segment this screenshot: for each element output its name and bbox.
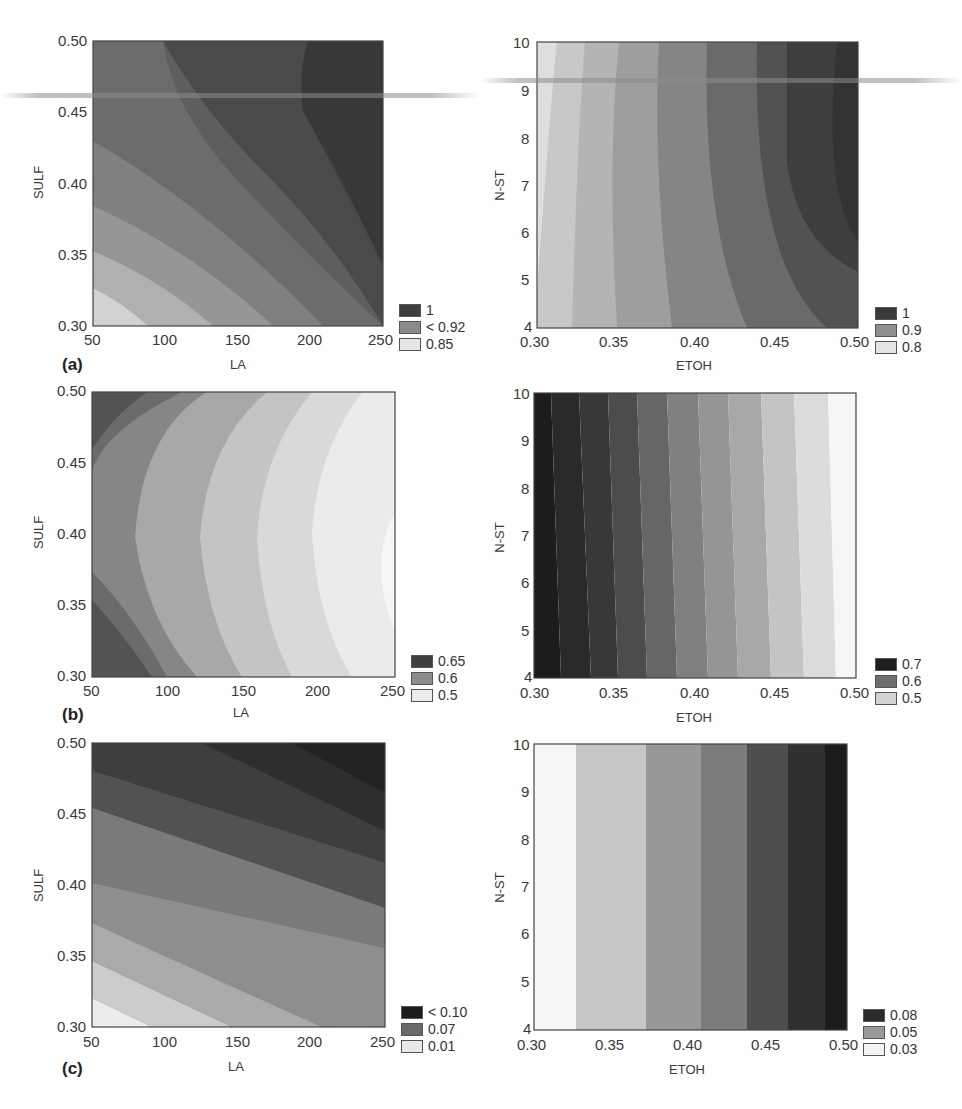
- y-tick: 9: [521, 83, 529, 98]
- legend-swatch: [399, 338, 421, 351]
- legend-swatch: [411, 689, 433, 702]
- y-tick: 0.40: [58, 176, 87, 191]
- y-tick: 0.50: [57, 735, 86, 750]
- y-axis-label: SULF: [31, 166, 46, 199]
- legend-item: 0.9: [875, 322, 921, 338]
- y-tick: 7: [521, 178, 529, 193]
- y-tick: 4: [524, 319, 532, 334]
- x-tick: 100: [152, 1034, 177, 1049]
- x-tick: 0.35: [599, 685, 628, 700]
- x-tick: 0.40: [680, 334, 709, 349]
- y-axis-label: N-ST: [492, 170, 507, 200]
- legend-item: 0.6: [875, 673, 921, 689]
- x-tick: 250: [368, 332, 393, 347]
- y-tick: 6: [521, 575, 529, 590]
- scan-streak-artifact: [0, 93, 480, 98]
- x-tick: 0.30: [520, 685, 549, 700]
- panel-b-left: 0.50 0.45 0.40 0.35 0.30 50 100 150 200 …: [0, 360, 480, 720]
- y-tick: 6: [521, 926, 529, 941]
- y-tick: 9: [521, 784, 529, 799]
- legend-item: < 0.10: [401, 1004, 467, 1020]
- y-tick: 8: [521, 832, 529, 847]
- panel-a-right: 10 9 8 7 6 5 4 0.30 0.35 0.40 0.45 0.50 …: [480, 0, 962, 360]
- legend-swatch: [399, 304, 421, 317]
- y-tick: 0.50: [57, 383, 86, 398]
- x-tick: 50: [83, 1034, 100, 1049]
- legend-item: 0.7: [875, 656, 921, 672]
- legend-item: 1: [399, 302, 465, 318]
- y-tick: 10: [513, 386, 530, 401]
- y-axis-label: SULF: [31, 869, 46, 902]
- x-tick: 0.40: [680, 685, 709, 700]
- x-tick: 0.40: [673, 1037, 702, 1052]
- y-tick: 0.35: [57, 948, 86, 963]
- y-tick: 0.30: [57, 1019, 86, 1034]
- legend: 1 0.9 0.8: [875, 305, 921, 356]
- y-tick: 10: [513, 35, 530, 50]
- legend-item: 1: [875, 305, 921, 321]
- panel-a-left: 0.50 0.45 0.40 0.35 0.30 50 100 150 200 …: [0, 0, 480, 360]
- y-tick: 0.45: [57, 806, 86, 821]
- legend-swatch: [401, 1040, 423, 1053]
- legend-swatch: [399, 321, 421, 334]
- x-tick: 0.35: [599, 334, 628, 349]
- y-axis-label: SULF: [31, 516, 46, 549]
- legend-item: 0.5: [411, 687, 465, 703]
- x-tick: 0.30: [520, 334, 549, 349]
- panel-c-right: 10 9 8 7 6 5 4 0.30 0.35 0.40 0.45 0.50 …: [480, 720, 962, 1109]
- x-tick: 0.45: [760, 685, 789, 700]
- x-tick: 200: [305, 683, 330, 698]
- legend: 0.08 0.05 0.03: [863, 1007, 917, 1058]
- x-tick: 100: [152, 332, 177, 347]
- y-tick: 0.35: [57, 597, 86, 612]
- y-tick: 10: [513, 737, 530, 752]
- x-tick: 0.35: [595, 1037, 624, 1052]
- panel-letter: (c): [62, 1059, 83, 1079]
- panel-b-right: 10 9 8 7 6 5 4 0.30 0.35 0.40 0.45 0.50 …: [480, 360, 962, 720]
- x-tick: 150: [225, 332, 250, 347]
- x-tick: 250: [380, 683, 405, 698]
- y-tick: 9: [521, 433, 529, 448]
- legend-item: 0.85: [399, 336, 465, 352]
- legend-item: 0.03: [863, 1041, 917, 1057]
- legend-item: 0.08: [863, 1007, 917, 1023]
- y-tick: 7: [521, 528, 529, 543]
- y-tick: 0.45: [57, 455, 86, 470]
- x-tick: 0.45: [760, 334, 789, 349]
- legend-swatch: [875, 675, 897, 688]
- y-tick: 5: [521, 623, 529, 638]
- y-tick: 7: [521, 879, 529, 894]
- legend-swatch: [863, 1009, 885, 1022]
- legend-swatch: [863, 1043, 885, 1056]
- y-tick: 0.50: [58, 33, 87, 48]
- y-tick: 0.40: [57, 877, 86, 892]
- legend: 0.7 0.6 0.5: [875, 656, 921, 707]
- legend-item: 0.05: [863, 1024, 917, 1040]
- y-tick: 8: [521, 481, 529, 496]
- legend-item: 0.07: [401, 1021, 467, 1037]
- legend-swatch: [875, 341, 897, 354]
- x-tick: 200: [297, 332, 322, 347]
- y-tick: 6: [521, 225, 529, 240]
- legend: < 0.10 0.07 0.01: [401, 1004, 467, 1055]
- legend: 0.65 0.6 0.5: [411, 653, 465, 704]
- legend-item: < 0.92: [399, 319, 465, 335]
- x-tick: 0.45: [751, 1037, 780, 1052]
- y-axis-label: N-ST: [492, 872, 507, 902]
- legend-swatch: [401, 1023, 423, 1036]
- panel-c-left: 0.50 0.45 0.40 0.35 0.30 50 100 150 200 …: [0, 720, 480, 1109]
- x-tick: 0.50: [840, 334, 869, 349]
- y-tick: 0.30: [58, 318, 87, 333]
- y-tick: 4: [523, 1021, 531, 1036]
- legend-swatch: [401, 1006, 423, 1019]
- y-tick: 5: [521, 272, 529, 287]
- y-tick: 0.45: [58, 104, 87, 119]
- y-tick: 5: [521, 974, 529, 989]
- x-axis-label: ETOH: [669, 1062, 705, 1077]
- legend: 1 < 0.92 0.85: [399, 302, 465, 353]
- x-tick: 150: [225, 1034, 250, 1049]
- legend-swatch: [411, 655, 433, 668]
- y-tick: 0.40: [57, 526, 86, 541]
- x-tick: 50: [84, 332, 101, 347]
- legend-swatch: [875, 307, 897, 320]
